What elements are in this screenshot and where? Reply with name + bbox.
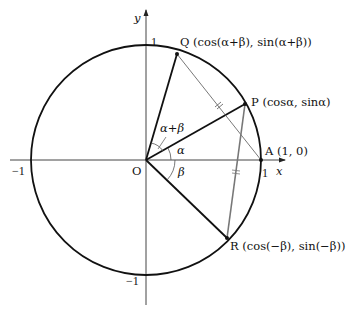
segment-PR: [227, 104, 245, 238]
tick-y-neg: −1: [126, 274, 139, 288]
point-Q: [175, 52, 179, 56]
y-axis-label: y: [133, 11, 141, 25]
point-A: [259, 158, 263, 162]
point-R: [225, 236, 229, 240]
point-P: [243, 102, 247, 106]
angle-arc-alpha: [168, 148, 171, 160]
point-R-label: R (cos(−β), sin(−β)): [230, 239, 345, 253]
point-A-label: A (1, 0): [264, 144, 308, 158]
unit-circle-diagram: y x O 1 1 −1 −1 Q (cos(α+β), sin(α+β)) P…: [0, 0, 363, 315]
tick-y-pos: 1: [151, 35, 157, 49]
point-P-label: P (cosα, sinα): [251, 95, 330, 109]
angle-arc-beta: [167, 160, 175, 180]
point-Q-label: Q (cos(α+β), sin(α+β)): [180, 35, 312, 49]
angle-label-alpha-plus-beta: α+β: [160, 121, 184, 135]
segment-OR: [146, 160, 227, 238]
x-axis-label: x: [276, 164, 283, 178]
tick-x-pos: 1: [262, 166, 268, 180]
angle-label-beta: β: [177, 165, 185, 179]
angle-label-leader: [158, 137, 166, 149]
angle-label-alpha: α: [177, 143, 185, 157]
tick-x-neg: −1: [12, 164, 25, 178]
origin-label: O: [132, 164, 141, 178]
